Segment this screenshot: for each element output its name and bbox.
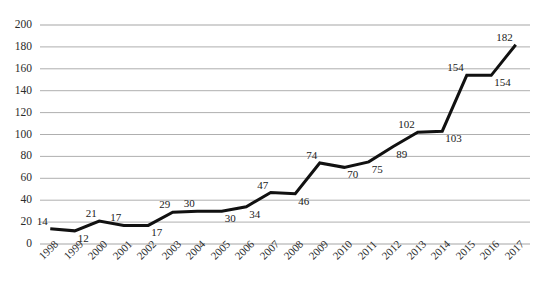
y-axis-tick-label: 20: [2, 216, 32, 228]
data-point-label: 21: [86, 208, 97, 219]
y-axis-tick-label: 200: [2, 19, 32, 31]
data-point-label: 103: [445, 133, 462, 144]
y-axis-tick-label: 160: [2, 63, 32, 75]
y-axis-tick-label: 180: [2, 41, 32, 53]
data-point-label: 12: [78, 233, 89, 244]
data-point-label: 102: [398, 119, 415, 130]
y-axis-tick-label: 60: [2, 172, 32, 184]
data-point-label: 46: [298, 196, 309, 207]
y-axis-tick-label: 40: [2, 194, 32, 206]
data-point-label: 75: [372, 164, 383, 175]
data-point-label: 154: [494, 77, 511, 88]
data-point-label: 30: [184, 198, 195, 209]
data-point-label: 14: [37, 216, 48, 227]
data-point-label: 30: [225, 213, 236, 224]
data-point-label: 47: [257, 180, 268, 191]
data-point-label: 74: [306, 150, 317, 161]
y-axis-tick-label: 0: [2, 238, 32, 250]
data-point-label: 70: [347, 169, 358, 180]
data-point-label: 154: [447, 62, 464, 73]
data-point-label: 29: [159, 199, 170, 210]
y-axis-tick-label: 100: [2, 129, 32, 141]
y-axis-tick-label: 80: [2, 150, 32, 162]
data-point-label: 89: [396, 149, 407, 160]
data-point-label: 17: [110, 212, 121, 223]
data-point-label: 34: [249, 209, 260, 220]
y-axis-tick-label: 120: [2, 107, 32, 119]
line-chart: 020406080100120140160180200 199819992000…: [0, 0, 547, 296]
data-point-label: 17: [151, 227, 162, 238]
data-point-label: 182: [496, 32, 513, 43]
y-axis-tick-label: 140: [2, 85, 32, 97]
